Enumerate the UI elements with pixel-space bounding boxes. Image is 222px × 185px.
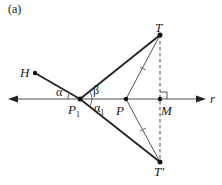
label-Tprime: T′ [154, 165, 164, 178]
axis-line-r [8, 96, 206, 103]
panel-label: (a) [8, 3, 21, 15]
label-H: H [20, 66, 29, 79]
label-angle-alpha1: α1 [94, 102, 104, 117]
point-P1 [78, 97, 83, 102]
reflection-diagram [0, 0, 222, 185]
point-H [33, 71, 37, 75]
label-r: r [210, 92, 215, 105]
point-M [158, 97, 162, 101]
label-T: T [155, 21, 162, 34]
label-angle-beta: β [93, 84, 99, 96]
segment-P-T [126, 35, 160, 99]
left-arrowhead-icon [8, 96, 18, 103]
angle-arc-alpha1 [90, 99, 93, 107]
point-P [124, 97, 128, 101]
right-arrowhead-icon [196, 96, 206, 103]
label-P1: P1 [68, 103, 80, 119]
label-P1-subscript: 1 [76, 110, 80, 119]
segment-P-Tprime [126, 99, 160, 162]
label-P1-letter: P [68, 102, 76, 117]
label-alpha1-subscript: 1 [100, 108, 104, 117]
angle-arc-beta [90, 92, 93, 100]
angle-arc-alpha [68, 93, 70, 99]
label-P: P [116, 104, 124, 117]
reflected-ray-P1-T [80, 35, 160, 99]
label-M: M [161, 104, 172, 117]
label-angle-alpha: α [56, 86, 62, 98]
